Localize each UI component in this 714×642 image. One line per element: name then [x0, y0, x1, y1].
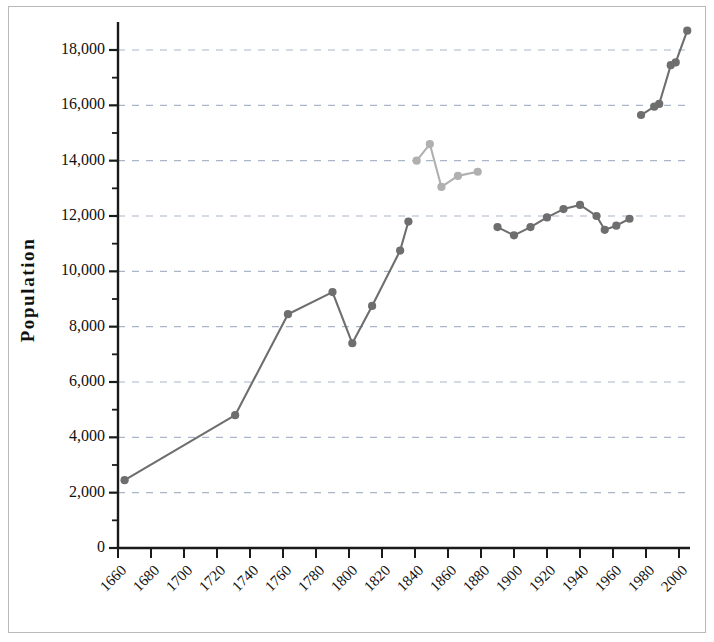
- data-point-marker: [474, 168, 482, 176]
- data-point-marker: [413, 157, 421, 165]
- data-point-marker: [625, 215, 633, 223]
- plot-area: [0, 0, 714, 642]
- y-tick-label: 14,000: [61, 151, 105, 169]
- y-tick-label: 18,000: [61, 40, 105, 58]
- data-point-marker: [284, 310, 292, 318]
- data-point-marker: [576, 201, 584, 209]
- y-tick-label: 12,000: [61, 206, 105, 224]
- data-point-marker: [396, 246, 404, 254]
- data-point-marker: [612, 222, 620, 230]
- data-point-marker: [404, 217, 412, 225]
- y-tick-label: 10,000: [61, 261, 105, 279]
- data-point-marker: [592, 212, 600, 220]
- grid-lines: [118, 50, 690, 493]
- data-point-marker: [368, 302, 376, 310]
- axis-lines: [118, 22, 690, 548]
- data-point-marker: [348, 339, 356, 347]
- series-line: [417, 144, 478, 187]
- data-point-marker: [328, 288, 336, 296]
- data-series: [121, 27, 692, 485]
- y-tick-label: 2,000: [69, 483, 105, 501]
- y-tick-label: 6,000: [69, 372, 105, 390]
- series-line: [641, 31, 687, 115]
- y-tick-label: 16,000: [61, 95, 105, 113]
- data-point-marker: [543, 213, 551, 221]
- data-point-marker: [601, 226, 609, 234]
- y-tick-label: 8,000: [69, 317, 105, 335]
- data-point-marker: [231, 411, 239, 419]
- data-point-marker: [672, 58, 680, 66]
- data-point-marker: [437, 183, 445, 191]
- y-tick-label: 4,000: [69, 427, 105, 445]
- data-point-marker: [655, 100, 663, 108]
- data-point-marker: [426, 140, 434, 148]
- data-point-marker: [526, 223, 534, 231]
- data-point-marker: [637, 111, 645, 119]
- data-point-marker: [121, 476, 129, 484]
- data-point-marker: [683, 27, 691, 35]
- data-point-marker: [559, 205, 567, 213]
- axis-ticks: [109, 50, 679, 558]
- data-point-marker: [454, 172, 462, 180]
- data-point-marker: [510, 231, 518, 239]
- y-tick-label: 0: [97, 538, 105, 556]
- chart-page: Population 02,0004,0006,0008,00010,00012…: [0, 0, 714, 642]
- series-line: [125, 222, 409, 481]
- data-point-marker: [493, 223, 501, 231]
